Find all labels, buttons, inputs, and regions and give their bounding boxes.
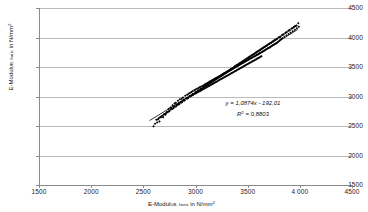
x-axis-title: E-ModulUB, horiz in N/mm2 [0,199,363,208]
r-squared-number: = 0,8803 [244,111,269,117]
scatter-series [39,8,352,185]
y-axis-title-unit: in N/mm [8,26,14,50]
x-tick-label: 2500 [123,188,163,195]
x-tick-label: 3000 [176,188,216,195]
x-axis-title-subscript: UB, horiz [170,202,188,207]
y-axis-title: E-ModulUB, horiz in N/mm2 [6,2,16,112]
y-axis-title-subscript: UB, horiz [9,50,14,68]
x-axis-title-main: E-Modul [148,201,170,207]
x-tick-label: 4500 [332,188,368,195]
x-tick-label: 3500 [228,188,268,195]
y-axis-title-exponent: 2 [7,24,12,26]
y-axis-title-main: E-Modul [8,68,14,90]
regression-annotation: y = 1,0874x - 192,01 R2 = 0,8803 [212,99,294,119]
x-tick-label: 4 000 [280,188,320,195]
x-axis-title-exponent: 2 [213,200,215,205]
y-axis-title-wrapper: E-ModulUB, horiz in N/mm2 [6,2,16,112]
x-tick-label: 1500 [19,188,59,195]
r-squared-value: R2 = 0,8803 [212,108,294,119]
x-axis-title-unit: in N/mm [189,201,213,207]
x-tick-label: 2000 [71,188,111,195]
regression-equation: y = 1,0874x - 192,01 [212,99,294,108]
